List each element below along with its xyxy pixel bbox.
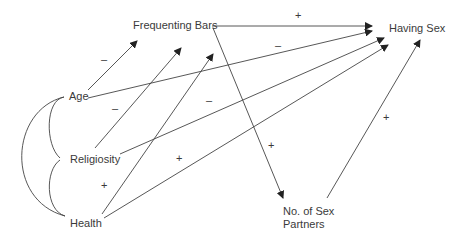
sign-health-to-bars: +: [101, 180, 107, 191]
sign-bars-to-partners: +: [268, 140, 274, 151]
node-health: Health: [70, 217, 102, 230]
edge-religiosity-to-sex: [120, 38, 384, 154]
node-frequenting-bars: Frequenting Bars: [133, 19, 217, 32]
edge-health-to-bars: [102, 54, 213, 214]
sign-bars-to-sex: +: [295, 10, 301, 21]
sign-religiosity-to-sex: –: [206, 95, 212, 106]
node-no-of-sex-partners: No. of Sex Partners: [283, 205, 334, 231]
sign-age-to-sex: –: [275, 40, 281, 51]
node-age: Age: [69, 90, 89, 103]
correlation-age-religiosity: [49, 97, 64, 158]
sign-partners-to-sex: +: [383, 112, 389, 123]
edge-health-to-sex: [104, 45, 388, 218]
node-partners-line1: No. of Sex: [283, 205, 334, 218]
edge-age-to-sex: [88, 31, 372, 98]
sign-religiosity-to-bars: –: [112, 103, 118, 114]
node-religiosity: Religiosity: [70, 153, 120, 166]
sign-health-to-sex: +: [176, 153, 182, 164]
edge-bars-to-partners: [213, 28, 283, 198]
correlation-religiosity-health: [49, 160, 65, 216]
sign-age-to-bars: –: [101, 54, 107, 65]
edge-age-to-bars: [88, 41, 137, 90]
edge-partners-to-sex: [327, 40, 420, 198]
node-having-sex: Having Sex: [389, 22, 445, 35]
node-partners-line2: Partners: [283, 218, 334, 231]
